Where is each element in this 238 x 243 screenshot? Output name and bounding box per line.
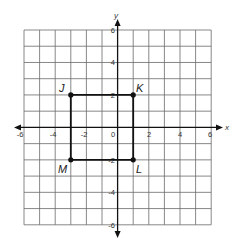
x-tick-label: -4 [50,130,57,139]
y-tick-label: -6 [108,221,115,230]
y-tick-label: 6 [111,26,115,35]
x-tick-label: -6 [17,130,24,139]
y-tick-label: -4 [108,188,115,197]
y-axis-up-arrow-icon [115,19,121,26]
vertex-label-k: K [136,82,144,94]
vertex-label-l: L [136,163,142,175]
y-axis-down-arrow-icon [115,231,121,238]
x-tick-label: 6 [208,130,212,139]
x-tick-label: 2 [147,130,151,139]
vertex-l [131,157,136,162]
x-tick-label: -2 [81,130,88,139]
axis-arrows [14,19,223,238]
y-tick-label: 4 [111,58,115,67]
x-axis-right-arrow-icon [216,124,223,130]
coordinate-plane: x y -6 -4 -2 0 2 4 6 6 4 2 -2 -4 -6 J K … [0,0,238,243]
vertex-m [68,157,73,162]
vertex-label-j: J [58,82,65,94]
x-tick-label: 4 [178,130,182,139]
x-axis-label: x [224,123,230,132]
axes [19,24,218,233]
vertex-label-m: M [58,163,68,175]
origin-label: 0 [111,130,115,139]
vertex-j [68,92,73,97]
y-axis-label: y [113,11,119,20]
